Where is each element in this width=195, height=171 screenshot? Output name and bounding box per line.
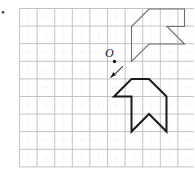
rotation-centre-dot: [113, 60, 116, 63]
figure-canvas: O: [0, 0, 194, 171]
rotation-arrow-head: [111, 72, 116, 77]
centre-label-O: O: [105, 46, 114, 60]
geometry-figure: • O: [0, 0, 194, 171]
grid-minor-lines: [20, 9, 195, 167]
original-polygon: [132, 9, 185, 62]
